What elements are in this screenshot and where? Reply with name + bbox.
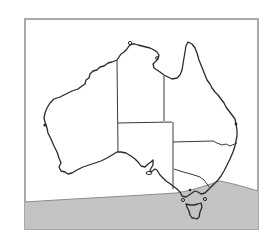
map-figure: Australia xyxy=(0,0,280,245)
australia-map xyxy=(0,0,280,245)
east-coast-marker xyxy=(235,123,238,126)
west-coast-marker xyxy=(43,123,46,126)
port-phillip-marker xyxy=(189,189,192,192)
